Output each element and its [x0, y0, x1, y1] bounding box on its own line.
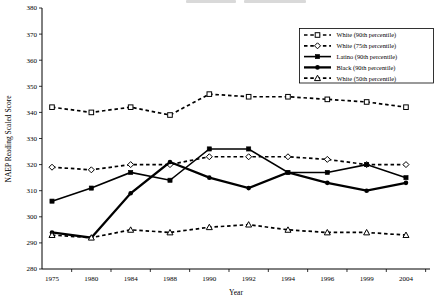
- y-tick-label: 370: [27, 31, 38, 39]
- legend-item-white-75th-percentile: White (75th percentile): [304, 42, 396, 50]
- x-tick-label: 1996: [320, 275, 335, 283]
- x-tick-label: 1988: [163, 275, 178, 283]
- y-tick-label: 350: [27, 83, 38, 91]
- x-tick-label: 1984: [124, 275, 139, 283]
- y-axis-ticks: 280290300310320330340350360370380: [27, 4, 43, 273]
- x-tick-label: 1994: [281, 275, 296, 283]
- legend-label: White (50th percentile): [337, 75, 397, 83]
- y-tick-label: 340: [27, 109, 38, 117]
- x-tick-label: 1975: [45, 275, 60, 283]
- y-tick-label: 290: [27, 239, 38, 247]
- series-line-white-50th-percentile: [52, 225, 406, 238]
- legend-label: White (90th percentile): [337, 31, 397, 39]
- y-tick-label: 360: [27, 57, 38, 65]
- y-tick-label: 280: [27, 265, 38, 273]
- y-tick-label: 310: [27, 187, 38, 195]
- y-tick-label: 320: [27, 161, 38, 169]
- legend-label: White (75th percentile): [337, 42, 397, 50]
- x-axis-title: Year: [229, 288, 243, 297]
- x-axis-ticks: 1975198019841988199019921994199619992004: [45, 269, 426, 283]
- series-white-50th-percentile: [52, 225, 406, 238]
- y-tick-label: 380: [27, 4, 38, 12]
- y-tick-label: 300: [27, 213, 38, 221]
- series-markers-black-90th-percentile: [50, 160, 409, 240]
- series-markers-latino-90th-percentile: [50, 147, 408, 203]
- y-axis-title: NAEP Reading Scaled Score: [4, 95, 13, 183]
- legend: White (90th percentile)White (75th perce…: [300, 29, 434, 84]
- legend-label: Latino (90th percentile): [337, 53, 398, 61]
- x-tick-label: 1980: [84, 275, 99, 283]
- x-tick-label: 2004: [399, 275, 414, 283]
- naep-reading-line-chart: 2802903003103203303403503603703801975198…: [0, 0, 436, 305]
- y-tick-label: 330: [27, 135, 38, 143]
- x-tick-label: 1990: [202, 275, 217, 283]
- x-tick-label: 1999: [360, 275, 375, 283]
- series-white-90th-percentile: [52, 94, 406, 115]
- x-tick-label: 1992: [242, 275, 257, 283]
- chart-figure: 2802903003103203303403503603703801975198…: [0, 0, 436, 305]
- legend-label: Black (90th percentile): [337, 64, 396, 72]
- series-line-white-90th-percentile: [52, 94, 406, 115]
